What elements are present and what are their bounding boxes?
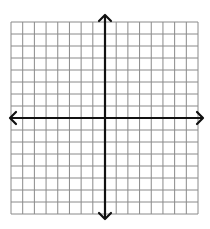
coordinate-plane [0,0,210,229]
